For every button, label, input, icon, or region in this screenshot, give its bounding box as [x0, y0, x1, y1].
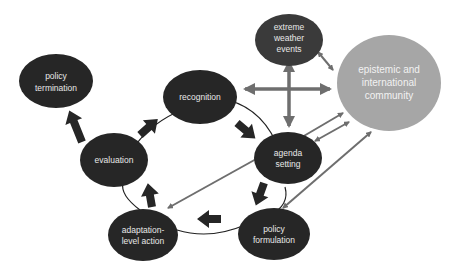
label-extreme: extreme [274, 22, 305, 32]
label-recognition: recognition [179, 92, 221, 102]
cycle-curve-formulation-adaptation [177, 225, 245, 234]
arrow-to-adaptation [168, 158, 258, 208]
label-events: events [276, 44, 301, 54]
arrow-to-agenda [231, 116, 261, 145]
label-policy: policy [263, 224, 285, 234]
arrow-to-recognition [134, 112, 164, 141]
node-adaptation-level-action: adaptation- level action [108, 209, 178, 261]
policy-cycle-diagram: policy termination recognition evaluatio… [0, 0, 458, 273]
label-community: community [365, 90, 413, 101]
label-international: international [362, 77, 416, 88]
node-epistemic-international-community: epistemic and international community [337, 35, 441, 131]
label-evaluation: evaluation [95, 155, 134, 165]
arrow-weather-epistemic [318, 52, 333, 70]
label-weather: weather [273, 33, 304, 43]
label-termination: termination [35, 83, 77, 93]
arrow-to-evaluation [139, 182, 161, 209]
label-adaptation: adaptation- [122, 225, 165, 235]
node-recognition: recognition [163, 70, 237, 124]
node-evaluation: evaluation [80, 133, 148, 187]
label-agenda: agenda [274, 148, 303, 158]
label-formulation: formulation [253, 235, 295, 245]
label-policy: policy [45, 71, 67, 81]
arrow-agenda-epistemic-2 [315, 122, 349, 141]
cycle-curve-adaptation-eval [123, 183, 140, 210]
arrow-to-adaptation-block [197, 210, 221, 228]
node-extreme-weather-events: extreme weather events [255, 14, 323, 66]
arrow-to-formulation [247, 180, 272, 209]
arrow-to-termination [61, 107, 90, 145]
label-setting: setting [275, 159, 300, 169]
node-agenda-setting: agenda setting [254, 132, 322, 184]
label-level-action: level action [122, 236, 165, 246]
node-policy-termination: policy termination [19, 54, 93, 108]
node-policy-formulation: policy formulation [238, 208, 310, 260]
label-epistemic: epistemic and [358, 64, 420, 75]
